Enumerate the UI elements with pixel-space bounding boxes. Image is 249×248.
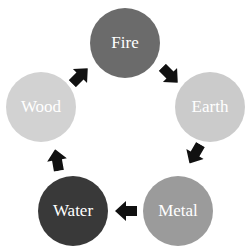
- arrow-water-to-wood-icon: [45, 147, 69, 172]
- node-fire-label: Fire: [111, 33, 138, 53]
- node-water-label: Water: [53, 201, 93, 221]
- node-wood-label: Wood: [21, 97, 61, 117]
- arrow-metal-to-water-icon: [115, 201, 137, 221]
- arrow-earth-to-metal-icon: [181, 139, 209, 168]
- node-earth-label: Earth: [192, 97, 229, 117]
- node-metal: Metal: [143, 176, 213, 246]
- node-wood: Wood: [6, 72, 76, 142]
- node-metal-label: Metal: [158, 201, 198, 221]
- node-earth: Earth: [175, 72, 245, 142]
- arrow-fire-to-earth-icon: [155, 60, 185, 90]
- node-fire: Fire: [90, 8, 160, 78]
- node-water: Water: [38, 176, 108, 246]
